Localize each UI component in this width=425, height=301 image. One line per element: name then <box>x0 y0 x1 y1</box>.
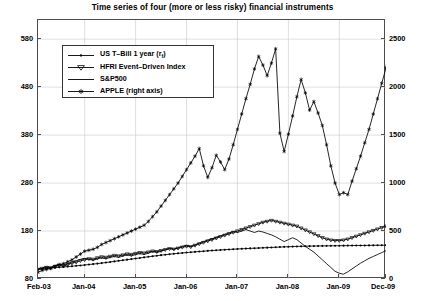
x-axis-tickmark-0 <box>37 274 38 278</box>
y-axis-left-tickmark-0 <box>37 278 41 279</box>
x-axis-tick-label-6: Jan-09 <box>327 282 350 291</box>
y-axis-left-tickmark-3 <box>37 134 41 135</box>
x-axis-tick-label-7: Dec-09 <box>371 282 395 291</box>
y-axis-left-tick-label-3: 380 <box>0 130 33 139</box>
legend-sample-hfri-line <box>67 62 95 73</box>
y-axis-right-tickmark-5 <box>381 38 385 39</box>
legend-label-tbill: US T–Bill 1 year (rf) <box>100 50 166 60</box>
y-axis-left-tickmark-5 <box>37 38 41 39</box>
x-axis-tickmark-3 <box>186 274 187 278</box>
y-axis-left-tickmark-2 <box>37 182 41 183</box>
legend-item-sp500: S&P500 <box>67 73 209 85</box>
x-axis-tick-label-0: Feb-03 <box>27 282 51 291</box>
legend-item-hfri: HFRI Event–Driven Index <box>67 61 209 73</box>
x-axis-tickmark-6 <box>338 274 339 278</box>
legend-label-tbill-tail: ) <box>163 49 165 58</box>
y-axis-right-tick-label-2: 1000 <box>389 178 425 187</box>
chart-title: Time series of four (more or less risky)… <box>0 3 425 12</box>
legend-sample-tbill-line <box>67 50 95 61</box>
series-s-p500 <box>38 230 386 275</box>
y-axis-left-tick-label-2: 280 <box>0 178 33 187</box>
y-axis-right-tick-label-4: 2000 <box>389 82 425 91</box>
x-axis-tick-label-4: Jan-07 <box>225 282 248 291</box>
legend-label-sp500: S&P500 <box>100 75 127 82</box>
y-axis-right-tick-label-3: 1500 <box>389 130 425 139</box>
x-axis-tickmark-1 <box>84 274 85 278</box>
x-axis-tick-label-1: Jan-04 <box>72 282 95 291</box>
y-axis-left-tickmark-1 <box>37 230 41 231</box>
legend-sample-sp500-line <box>67 74 95 85</box>
y-axis-right-tickmark-2 <box>381 182 385 183</box>
legend-item-tbill: US T–Bill 1 year (rf) <box>67 49 209 61</box>
legend-label-hfri: HFRI Event–Driven Index <box>100 63 185 70</box>
x-axis-tick-label-3: Jan-06 <box>174 282 197 291</box>
y-axis-left-tick-label-5: 580 <box>0 34 33 43</box>
y-axis-right-tickmark-4 <box>381 86 385 87</box>
x-axis-tickmark-4 <box>236 274 237 278</box>
x-axis-tickmark-7 <box>385 274 386 278</box>
x-axis-tick-label-2: Jan-05 <box>123 282 146 291</box>
legend-item-apple: APPLE (right axis) <box>67 85 209 97</box>
chart-legend: US T–Bill 1 year (rf) HFRI Event–Driven … <box>62 45 214 98</box>
legend-label-tbill-main: US T–Bill 1 year (r <box>100 49 162 58</box>
legend-sample-apple-line <box>67 86 95 97</box>
series-us-t-bill-1-year-r-f <box>38 244 386 270</box>
y-axis-right-tick-label-5: 2500 <box>389 34 425 43</box>
x-axis-tickmark-5 <box>287 274 288 278</box>
y-axis-left-tick-label-4: 480 <box>0 82 33 91</box>
y-axis-left-tick-label-1: 180 <box>0 226 33 235</box>
legend-label-apple: APPLE (right axis) <box>100 87 163 94</box>
series-hfri-event-driven-index <box>38 219 386 271</box>
y-axis-right-tickmark-1 <box>381 230 385 231</box>
chart-figure: Time series of four (more or less risky)… <box>0 0 425 301</box>
x-axis-tickmark-2 <box>135 274 136 278</box>
x-axis-tick-label-5: Jan-08 <box>276 282 299 291</box>
y-axis-left-tickmark-4 <box>37 86 41 87</box>
y-axis-right-tickmark-0 <box>381 278 385 279</box>
y-axis-right-tick-label-1: 500 <box>389 226 425 235</box>
y-axis-right-tickmark-3 <box>381 134 385 135</box>
